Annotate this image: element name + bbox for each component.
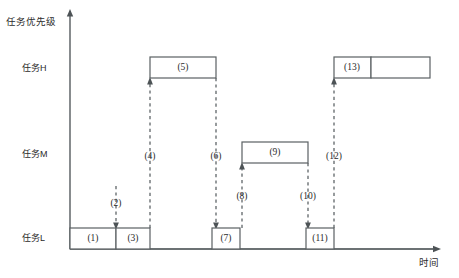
marker-label-2: (2) (110, 199, 121, 209)
marker-label-4: (4) (144, 152, 155, 162)
block-label-5: (5) (177, 63, 188, 73)
block-label-7: (7) (220, 234, 231, 244)
marker-label-6: (6) (210, 152, 221, 162)
y-axis-label: 任务优先级 (6, 17, 56, 27)
marker-label-8: (8) (236, 192, 247, 202)
execution-blocks (70, 57, 430, 249)
block-label-13: (13) (344, 63, 360, 73)
level-label-m: 任务M (22, 150, 48, 159)
block-label-1: (1) (87, 234, 98, 244)
marker-label-12: (12) (326, 152, 342, 162)
timing-diagram: 任务优先级 时间 任务H 任务M 任务L (1) (3) (5) (7) (9)… (0, 0, 459, 278)
y-axis-arrowhead (67, 9, 73, 16)
x-axis-arrowhead (433, 246, 441, 252)
block-label-11: (11) (312, 234, 327, 244)
block-label-3: (3) (127, 234, 138, 244)
x-axis-label: 时间 (419, 258, 439, 268)
block-14 (371, 57, 430, 78)
level-label-l: 任务L (22, 234, 45, 243)
block-label-9: (9) (269, 148, 280, 158)
marker-label-10: (10) (300, 192, 316, 202)
level-label-h: 任务H (22, 64, 47, 73)
